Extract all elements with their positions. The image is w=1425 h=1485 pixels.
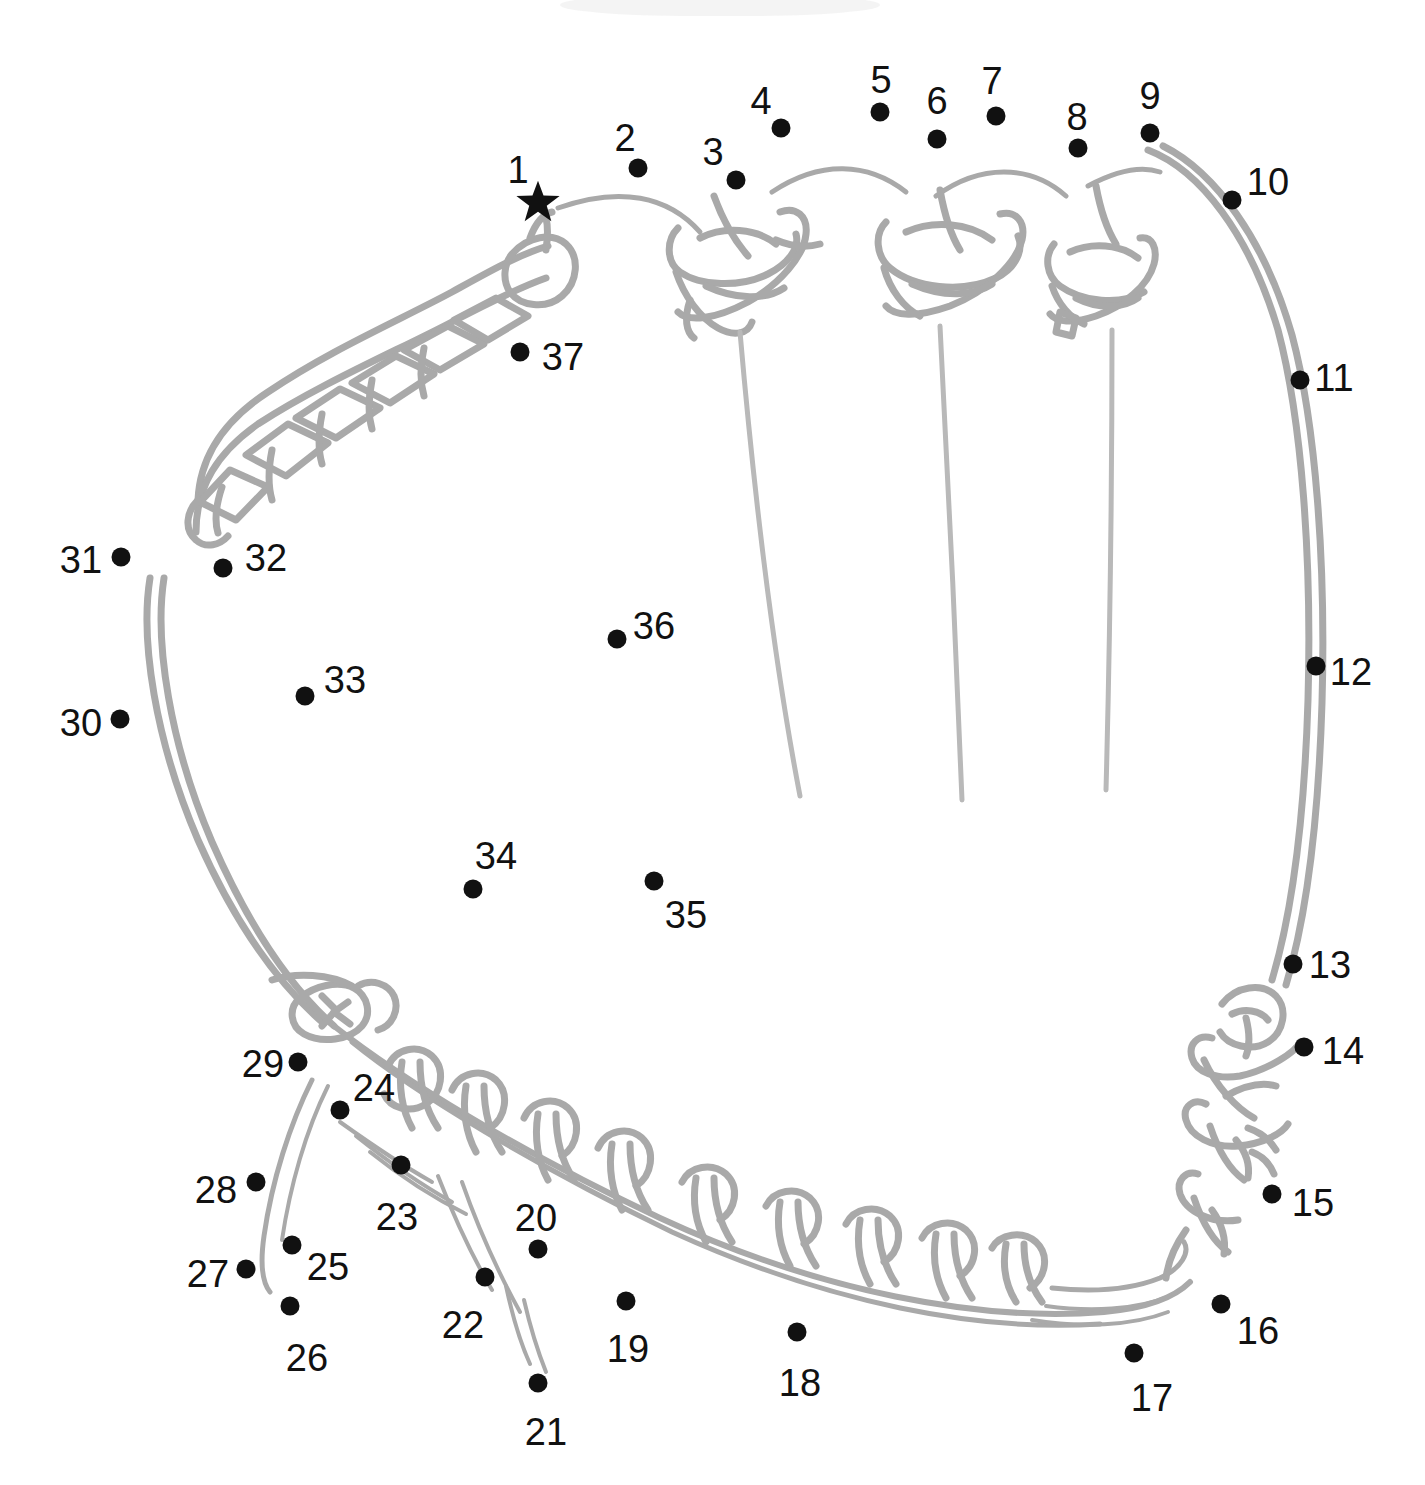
dot-label-4: 4: [750, 82, 771, 120]
dot-label-37: 37: [542, 338, 584, 376]
dot-label-33: 33: [324, 661, 366, 699]
dot-label-6: 6: [926, 82, 947, 120]
dot-label-24: 24: [353, 1069, 395, 1107]
dot-label-25: 25: [307, 1248, 349, 1286]
dot-label-30: 30: [60, 704, 102, 742]
dot-marker-25[interactable]: [283, 1236, 302, 1255]
dot-label-1: 1: [507, 151, 528, 189]
dot-label-23: 23: [376, 1198, 418, 1236]
dot-label-32: 32: [245, 539, 287, 577]
dot-label-21: 21: [525, 1413, 567, 1451]
dot-label-5: 5: [870, 61, 891, 99]
dot-label-18: 18: [779, 1364, 821, 1402]
dot-marker-32[interactable]: [214, 559, 233, 578]
dot-marker-18[interactable]: [788, 1323, 807, 1342]
dot-marker-17[interactable]: [1125, 1344, 1144, 1363]
dot-marker-11[interactable]: [1291, 371, 1310, 390]
dot-label-29: 29: [242, 1045, 284, 1083]
dot-label-9: 9: [1139, 77, 1160, 115]
puzzle-canvas: 1234567891011121314151617181920212223242…: [0, 0, 1425, 1485]
dot-marker-5[interactable]: [871, 103, 890, 122]
dot-marker-15[interactable]: [1263, 1185, 1282, 1204]
dot-marker-10[interactable]: [1223, 191, 1242, 210]
dot-marker-7[interactable]: [987, 107, 1006, 126]
dot-marker-14[interactable]: [1295, 1038, 1314, 1057]
dot-marker-37[interactable]: [511, 343, 530, 362]
dot-marker-24[interactable]: [331, 1101, 350, 1120]
dot-marker-21[interactable]: [529, 1374, 548, 1393]
dot-marker-28[interactable]: [247, 1173, 266, 1192]
dot-label-12: 12: [1330, 653, 1372, 691]
dot-marker-16[interactable]: [1212, 1295, 1231, 1314]
dot-marker-6[interactable]: [928, 130, 947, 149]
dot-label-11: 11: [1314, 359, 1353, 397]
dot-label-20: 20: [515, 1199, 557, 1237]
dot-marker-36[interactable]: [608, 630, 627, 649]
dot-label-7: 7: [981, 62, 1002, 100]
dot-label-10: 10: [1247, 163, 1289, 201]
dot-label-28: 28: [195, 1171, 237, 1209]
dot-label-16: 16: [1237, 1312, 1279, 1350]
dot-label-36: 36: [633, 607, 675, 645]
dot-marker-4[interactable]: [772, 119, 791, 138]
dot-label-3: 3: [702, 133, 723, 171]
dot-marker-26[interactable]: [281, 1297, 300, 1316]
dot-marker-2[interactable]: [629, 159, 648, 178]
dot-marker-27[interactable]: [237, 1260, 256, 1279]
dot-label-15: 15: [1292, 1184, 1334, 1222]
dot-label-26: 26: [286, 1339, 328, 1377]
dot-marker-29[interactable]: [289, 1053, 308, 1072]
dot-marker-30[interactable]: [111, 710, 130, 729]
dot-marker-13[interactable]: [1284, 955, 1303, 974]
dot-label-8: 8: [1066, 98, 1087, 136]
dot-marker-35[interactable]: [645, 872, 664, 891]
dot-marker-23[interactable]: [392, 1156, 411, 1175]
dot-marker-3[interactable]: [727, 171, 746, 190]
dot-label-27: 27: [187, 1255, 229, 1293]
dot-label-31: 31: [60, 541, 102, 579]
dot-label-19: 19: [607, 1330, 649, 1368]
dot-marker-12[interactable]: [1307, 657, 1326, 676]
dot-marker-20[interactable]: [529, 1240, 548, 1259]
dot-marker-22[interactable]: [476, 1268, 495, 1287]
dot-marker-31[interactable]: [112, 548, 131, 567]
dot-marker-19[interactable]: [617, 1292, 636, 1311]
dot-marker-8[interactable]: [1069, 139, 1088, 158]
dot-marker-9[interactable]: [1141, 124, 1160, 143]
dot-label-34: 34: [475, 837, 517, 875]
dot-marker-34[interactable]: [464, 880, 483, 899]
dot-marker-33[interactable]: [296, 687, 315, 706]
dot-label-14: 14: [1322, 1032, 1364, 1070]
dot-label-17: 17: [1131, 1379, 1173, 1417]
dot-label-2: 2: [614, 119, 635, 157]
dot-label-35: 35: [665, 896, 707, 934]
dot-label-13: 13: [1309, 946, 1351, 984]
dot-label-22: 22: [442, 1306, 484, 1344]
